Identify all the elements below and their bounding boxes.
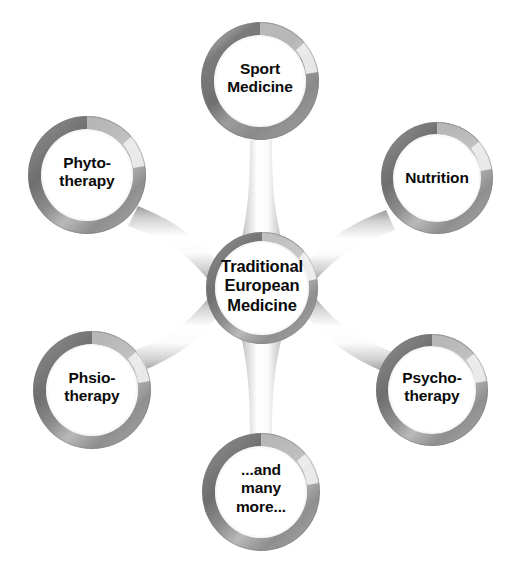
- node-phsiotherapy[interactable]: [33, 331, 151, 449]
- diagram-canvas: Sport Medicine Phyto- therapy Nutrition …: [0, 0, 512, 566]
- node-psychotherapy[interactable]: [376, 334, 488, 446]
- node-phytotherapy[interactable]: [28, 116, 146, 234]
- node-and-many-more[interactable]: [202, 433, 320, 551]
- node-hub-traditional-european-medicine[interactable]: [206, 232, 318, 344]
- connector-hub-to-psychotherapy: [306, 296, 393, 372]
- connector-hub-to-phytotherapy: [128, 206, 218, 282]
- diagram-svg: [0, 0, 512, 566]
- node-nutrition[interactable]: [381, 122, 493, 234]
- node-sport-medicine[interactable]: [201, 22, 319, 140]
- connector-hub-to-nutrition: [306, 210, 395, 282]
